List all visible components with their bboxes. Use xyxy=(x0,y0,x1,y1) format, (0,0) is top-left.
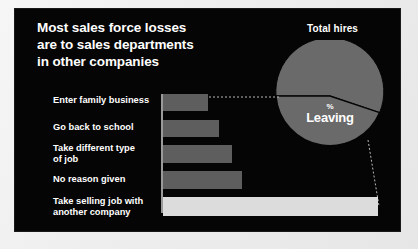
bar-chart: Enter family business Go back to school … xyxy=(15,92,400,220)
page-title: Most sales force losses are to sales dep… xyxy=(37,19,287,70)
bar-label: Take selling job with another company xyxy=(53,196,143,217)
bar-label: Go back to school xyxy=(53,122,134,133)
bar-label-line-1: No reason given xyxy=(53,174,125,185)
slide-root: Most sales force losses are to sales dep… xyxy=(0,0,418,249)
slide-panel: Most sales force losses are to sales dep… xyxy=(15,9,400,231)
bar-rect xyxy=(163,171,242,189)
bar-rect xyxy=(163,145,232,163)
pie-chart-title: Total hires xyxy=(265,23,400,34)
bar-label-line-1: Take different type xyxy=(53,143,135,154)
bar-label-line-2: another company xyxy=(53,207,143,218)
headline-line-2: are to sales departments xyxy=(37,36,287,53)
headline-line-3: in other companies xyxy=(37,53,287,70)
bar-rect xyxy=(163,94,208,111)
bar-label: Take different type of job xyxy=(53,143,135,164)
bar-rect-highlight xyxy=(163,197,378,216)
bar-label-line-2: of job xyxy=(53,154,135,165)
bar-label-line-1: Go back to school xyxy=(53,122,134,133)
bar-label-line-1: Enter family business xyxy=(53,95,149,106)
bar-rect xyxy=(163,120,219,137)
bar-label: No reason given xyxy=(53,174,125,185)
bar-label-line-1: Take selling job with xyxy=(53,196,143,207)
headline-line-1: Most sales force losses xyxy=(37,19,287,36)
bar-label: Enter family business xyxy=(53,95,149,106)
